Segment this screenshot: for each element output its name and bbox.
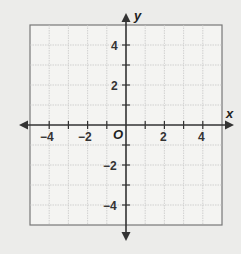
x-axis-label: x xyxy=(225,106,234,121)
y-tick-label: 2 xyxy=(111,79,118,93)
y-tick-label: −2 xyxy=(103,159,117,173)
x-arrow-right-icon xyxy=(225,121,234,130)
origin-label: O xyxy=(113,127,123,142)
x-tick-label: 4 xyxy=(198,130,205,144)
x-tick-label: −4 xyxy=(40,130,54,144)
x-arrow-left-icon xyxy=(19,121,28,130)
coordinate-plane: y x O −4 −2 2 4 4 2 −2 −4 xyxy=(0,0,241,254)
y-tick-label: 4 xyxy=(111,39,118,53)
y-arrow-up-icon xyxy=(122,13,131,22)
y-tick-label: −4 xyxy=(103,199,117,213)
y-axis-label: y xyxy=(133,8,142,23)
x-tick-label: −2 xyxy=(78,130,92,144)
x-tick-label: 2 xyxy=(160,130,167,144)
y-arrow-down-icon xyxy=(122,232,131,241)
